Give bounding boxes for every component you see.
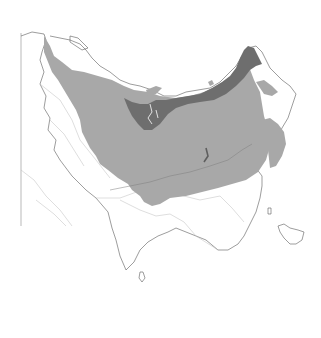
arctic-island — [146, 86, 162, 96]
japan-islands — [278, 224, 304, 244]
novaya-zemlya-island — [70, 36, 88, 50]
taiwan-island — [268, 208, 271, 214]
arctic-island-small — [208, 80, 214, 86]
sri-lanka-island — [139, 272, 145, 282]
range-map — [0, 0, 321, 338]
